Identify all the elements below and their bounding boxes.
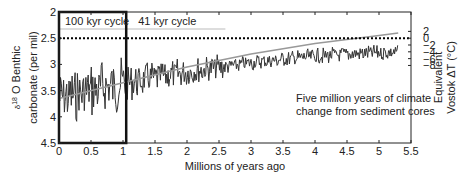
x-tick-label: 2.5 [211, 145, 226, 157]
x-tick-label: 1 [120, 145, 126, 157]
x-tick-label: 4.5 [339, 145, 354, 157]
y-axis-label-right: Equivalent [432, 52, 444, 103]
region-label-100kyr: 100 kyr cycle [65, 15, 129, 27]
climate-chart: 100 kyr cycle41 kyr cycle00.511.522.533.… [0, 0, 464, 179]
x-tick-label: 5 [376, 145, 382, 157]
x-axis-label: Millions of years ago [185, 160, 285, 172]
region-label-41kyr: 41 kyr cycle [138, 15, 196, 27]
x-tick-label: 1.5 [147, 145, 162, 157]
y-tick-label-left: 2 [50, 6, 56, 18]
y-tick-label-left: 3 [50, 58, 56, 70]
x-tick-label: 3 [248, 145, 254, 157]
y-tick-label-left: 2.5 [41, 32, 56, 44]
annotation-line1: Five million years of climate [296, 92, 431, 104]
y-axis-label-left: δ18 O Benthic [10, 45, 22, 109]
x-tick-label: 5.5 [403, 145, 418, 157]
x-tick-label: 0.5 [83, 145, 98, 157]
x-tick-label: 3.5 [275, 145, 290, 157]
y-tick-label-left: 4 [50, 111, 56, 123]
x-tick-label: 4 [312, 145, 318, 157]
x-tick-label: 0 [56, 145, 62, 157]
annotation-line2: change from sediment cores [296, 105, 435, 117]
y-tick-label-left: 3.5 [41, 85, 56, 97]
y-axis-label-left-2: carbonate (per mil) [27, 31, 39, 123]
y-tick-label-left: 4.5 [41, 137, 56, 149]
x-tick-label: 2 [184, 145, 190, 157]
y-axis-label-right-2: Vostok ΔT (°C) [445, 41, 457, 114]
